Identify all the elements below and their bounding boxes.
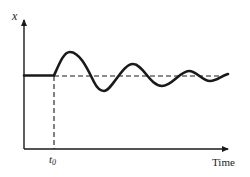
y-axis-label: x: [11, 9, 18, 23]
t0-label: t0: [49, 153, 56, 167]
damped-oscillation-chart: x t0 Time: [0, 0, 250, 177]
response-curve: [24, 52, 228, 91]
x-axis-label: Time: [212, 156, 235, 168]
t0-label-subscript: 0: [52, 158, 56, 167]
